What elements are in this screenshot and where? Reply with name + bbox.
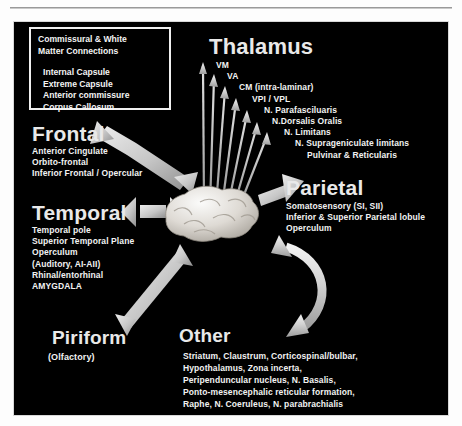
section-title-piriform: Piriform [52, 328, 126, 347]
temporal-item-superior-temporal-plane: Superior Temporal Plane [32, 236, 134, 247]
thalamus-item-va: VA [210, 71, 409, 82]
brain-illustration [166, 186, 259, 241]
temporal-item-auditory: (Auditory, AI-AII) [32, 259, 134, 270]
section-title-thalamus: Thalamus [209, 36, 313, 58]
section-items-other: Striatum, Claustrum, Corticospinal/bulba… [183, 350, 358, 410]
legend-item-anterior-commissure: Anterior commissure [43, 90, 129, 102]
thalamus-item-limitans: N. Limitans [210, 127, 409, 138]
temporal-item-operculum: Operculum [32, 247, 134, 258]
section-title-temporal: Temporal [32, 202, 127, 223]
thalamus-item-vm: VM [210, 60, 409, 71]
temporal-item-temporal-pole: Temporal pole [32, 225, 134, 236]
thalamus-item-dorsalis-oralis: N.Dorsalis Oralis [210, 116, 409, 127]
diagram-panel: Commissural & White Matter Connections I… [14, 22, 448, 415]
other-item-striatum: Striatum, Claustrum, Corticospinal/bulba… [183, 350, 358, 362]
parietal-item-operculum: Operculum [286, 223, 425, 234]
parietal-item-somatosensory: Somatosensory (SI, SII) [286, 201, 425, 212]
legend-item-internal-capsule: Internal Capsule [43, 67, 129, 79]
legend-items: Internal Capsule Extreme Capsule Anterio… [43, 67, 129, 113]
thalamus-item-pulvinar-reticularis: Pulvinar & Reticularis [210, 150, 409, 161]
legend-title-line-1: Commissural & White [38, 34, 127, 46]
thalamus-item-cm: CM (intra-laminar) [210, 82, 409, 93]
section-title-parietal: Parietal [286, 177, 363, 198]
section-items-piriform: (Olfactory) [48, 352, 95, 363]
other-item-ponto-mesencephalic: Ponto-mesencephalic reticular formation, [183, 386, 358, 398]
temporal-item-rhinal-entorhinal: Rhinal/entorhinal [32, 270, 134, 281]
other-item-hypothalamus: Hypothalamus, Zona incerta, [183, 362, 358, 374]
section-items-temporal: Temporal pole Superior Temporal Plane Op… [32, 225, 134, 292]
section-title-other: Other [179, 326, 231, 345]
legend-item-corpus-callosum: Corpus Callosum [43, 102, 129, 114]
legend-box: Commissural & White Matter Connections I… [29, 27, 171, 110]
parietal-item-parietal-lobule: Inferior & Superior Parietal lobule [286, 212, 425, 223]
section-items-frontal: Anterior Cingulate Orbito-frontal Inferi… [32, 146, 143, 180]
other-arrow [271, 235, 322, 337]
thalamus-item-vpi-vpl: VPI / VPL [210, 94, 409, 105]
legend-title: Commissural & White Matter Connections [38, 34, 127, 57]
legend-title-line-2: Matter Connections [38, 46, 127, 58]
section-items-parietal: Somatosensory (SI, SII) Inferior & Super… [286, 201, 425, 235]
page-top-rule-secondary [10, 8, 452, 9]
section-title-frontal: Frontal [32, 123, 105, 144]
thalamus-item-parafasciluaris: N. Parafasciluaris [210, 105, 409, 116]
frontal-item-orbito-frontal: Orbito-frontal [32, 157, 143, 168]
figure-page: Commissural & White Matter Connections I… [0, 0, 462, 426]
piriform-item-olfactory: (Olfactory) [48, 352, 95, 363]
temporal-item-amygdala: AMYGDALA [32, 281, 134, 292]
thalamus-item-suprageniculate-limitans: N. Suprageniculate limitans [210, 138, 409, 149]
other-item-peripenduncular: Peripenduncular nucleus, N. Basalis, [183, 374, 358, 386]
frontal-item-anterior-cingulate: Anterior Cingulate [32, 146, 143, 157]
other-item-raphe: Raphe, N. Coeruleus, N. parabrachialis [183, 398, 358, 410]
legend-item-extreme-capsule: Extreme Capsule [43, 79, 129, 91]
frontal-item-inferior-frontal: Inferior Frontal / Opercular [32, 168, 143, 179]
section-items-thalamus: VM VA CM (intra-laminar) VPI / VPL N. Pa… [210, 60, 409, 161]
